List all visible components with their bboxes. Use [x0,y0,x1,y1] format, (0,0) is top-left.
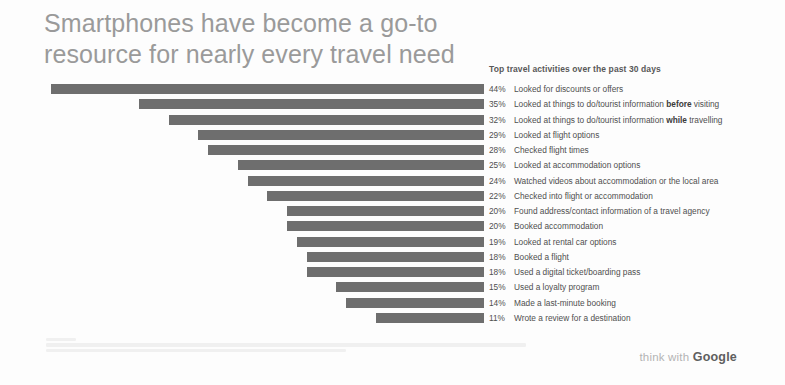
bar [307,267,484,277]
footnote-line [46,343,526,347]
brand-prefix: think with [639,351,692,363]
bar [336,282,484,292]
bar [287,221,484,231]
brand-name: Google [693,350,737,364]
bar-value-label: 11% [489,313,513,323]
bar-row: 24%Watched videos about accommodation or… [0,176,785,191]
bar [51,84,484,94]
footnote-line [46,338,76,341]
bar-value-label: 20% [489,221,513,231]
bar [376,313,484,323]
bar-row: 32%Looked at things to do/tourist inform… [0,115,785,130]
bar-value-label: 35% [489,99,513,109]
bar [238,160,484,170]
bar-value-label: 32% [489,115,513,125]
bar-category-label: Looked at things to do/tourist informati… [514,115,722,125]
bar-value-label: 29% [489,130,513,140]
bar-value-label: 44% [489,84,513,94]
page-title: Smartphones have become a go-to resource… [44,8,514,70]
bar-row: 18%Used a digital ticket/boarding pass [0,267,785,282]
bar-category-label: Watched videos about accommodation or th… [514,176,718,186]
bar-value-label: 22% [489,191,513,201]
bar-value-label: 15% [489,282,513,292]
bar-row: 28%Checked flight times [0,145,785,160]
bar-value-label: 20% [489,206,513,216]
think-with-google-logo: think with Google [639,350,737,364]
bar [287,206,484,216]
bar-category-label: Looked for discounts or offers [514,84,623,94]
bar [307,252,484,262]
bar [346,298,484,308]
bar-value-label: 28% [489,145,513,155]
bar-row: 20%Found address/contact information of … [0,206,785,221]
bar-category-label: Looked at flight options [514,130,599,140]
bar-value-label: 18% [489,267,513,277]
bar [169,115,484,125]
footnote-line [46,349,346,353]
bar-category-label: Wrote a review for a destination [514,313,631,323]
bar-category-label: Checked into flight or accommodation [514,191,653,201]
bar-category-label: Used a loyalty program [514,282,599,292]
bar-value-label: 14% [489,298,513,308]
bar [139,99,484,109]
bar-category-label: Looked at things to do/tourist informati… [514,99,719,109]
bar-row: 20%Booked accommodation [0,221,785,236]
bar [248,176,484,186]
bar-category-label: Booked a flight [514,252,569,262]
bar-category-label: Used a digital ticket/boarding pass [514,267,640,277]
bar [198,130,484,140]
bar-category-label: Found address/contact information of a t… [514,206,710,216]
bar [208,145,484,155]
bar-row: 35%Looked at things to do/tourist inform… [0,99,785,114]
bar-row: 15%Used a loyalty program [0,282,785,297]
bar-category-label: Booked accommodation [514,221,603,231]
bar-row: 25%Looked at accommodation options [0,160,785,175]
bar-category-label: Looked at accommodation options [514,160,640,170]
bar-row: 18%Booked a flight [0,252,785,267]
bar-row: 22%Checked into flight or accommodation [0,191,785,206]
bar-value-label: 25% [489,160,513,170]
footnote-source-text [46,338,546,354]
bar-value-label: 19% [489,237,513,247]
bar-value-label: 24% [489,176,513,186]
bar-category-label: Checked flight times [514,145,589,155]
bar-row: 11%Wrote a review for a destination [0,313,785,328]
bar-category-label: Looked at rental car options [514,237,616,247]
bar-row: 19%Looked at rental car options [0,237,785,252]
bar-row: 14%Made a last-minute booking [0,298,785,313]
bar-row: 29%Looked at flight options [0,130,785,145]
bar-row: 44%Looked for discounts or offers [0,84,785,99]
bar [267,191,484,201]
bar-chart-plot-area: 44%Looked for discounts or offers35%Look… [0,84,785,328]
legend-heading: Top travel activities over the past 30 d… [489,64,661,74]
bar-value-label: 18% [489,252,513,262]
bar-category-label: Made a last-minute booking [514,298,616,308]
bar [297,237,484,247]
